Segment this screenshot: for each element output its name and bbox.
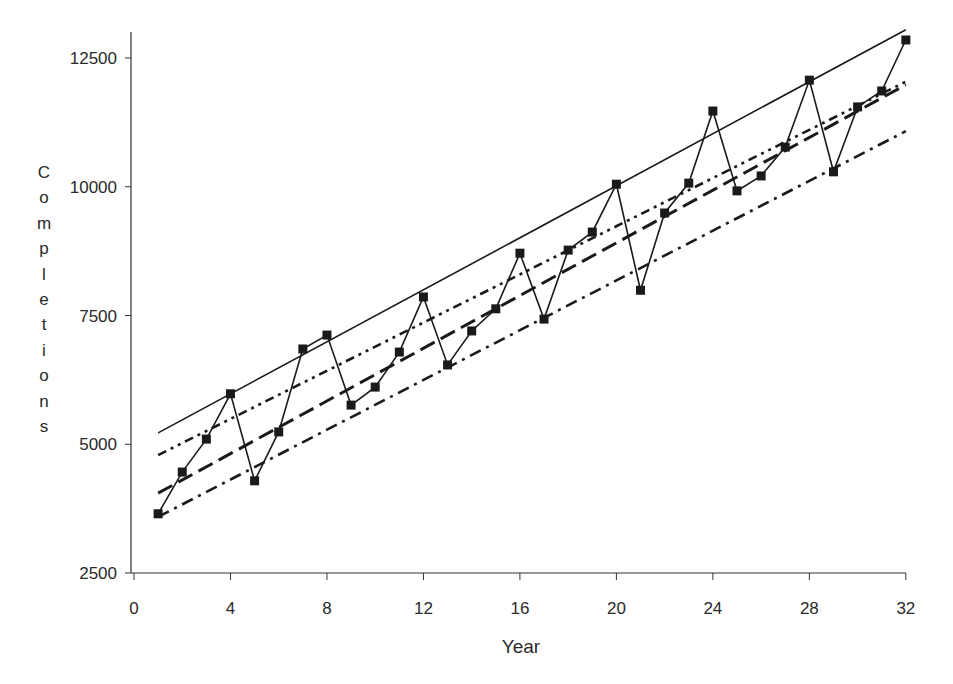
data-point-marker <box>660 209 669 218</box>
x-tick-label: 16 <box>510 599 529 618</box>
y-tick-label: 12500 <box>70 49 117 68</box>
y-tick-label: 7500 <box>79 307 117 326</box>
x-tick-label: 0 <box>129 599 138 618</box>
y-axis-title: Completions <box>37 163 51 436</box>
data-series <box>154 35 911 518</box>
y-axis-title-letter: n <box>39 392 48 411</box>
y-tick-label: 2500 <box>79 564 117 583</box>
data-point-marker <box>178 468 187 477</box>
y-tick-labels: 2500500075001000012500 <box>70 49 117 583</box>
data-point-marker <box>540 315 549 324</box>
x-tick-label: 8 <box>322 599 331 618</box>
data-point-marker <box>877 86 886 95</box>
trendlines <box>158 30 906 517</box>
trendline-dash-dot <box>158 131 906 517</box>
x-tick-label: 20 <box>607 599 626 618</box>
data-point-marker <box>588 228 597 237</box>
y-axis-title-letter: p <box>39 239 48 258</box>
x-tick-label: 12 <box>414 599 433 618</box>
y-axis-title-letter: l <box>42 265 46 284</box>
data-point-marker <box>226 389 235 398</box>
axes <box>125 32 906 580</box>
trendline-long-dash <box>158 85 906 493</box>
y-axis-title-letter: o <box>39 366 48 385</box>
data-point-marker <box>250 476 259 485</box>
data-point-marker <box>443 360 452 369</box>
x-tick-label: 24 <box>703 599 722 618</box>
data-point-marker <box>757 171 766 180</box>
data-point-marker <box>564 246 573 255</box>
data-point-marker <box>636 286 645 295</box>
data-point-marker <box>371 383 380 392</box>
data-point-marker <box>853 102 862 111</box>
x-tick-label: 32 <box>896 599 915 618</box>
data-point-marker <box>684 179 693 188</box>
trendline-solid <box>158 30 906 433</box>
data-point-marker <box>419 292 428 301</box>
completions-line <box>158 40 906 514</box>
data-point-marker <box>708 107 717 116</box>
data-point-marker <box>515 249 524 258</box>
x-axis-title: Year <box>502 636 541 657</box>
x-tick-label: 4 <box>226 599 235 618</box>
x-tick-label: 28 <box>800 599 819 618</box>
chart: 2500500075001000012500 048121620242832 Y… <box>0 0 953 684</box>
data-point-marker <box>901 35 910 44</box>
trendline-dash-dot-dot <box>158 82 906 455</box>
data-point-marker <box>347 401 356 410</box>
data-point-marker <box>274 427 283 436</box>
y-axis-title-letter: o <box>39 188 48 207</box>
y-axis-title-letter: t <box>42 315 47 334</box>
data-point-marker <box>829 167 838 176</box>
y-axis-title-letter: m <box>37 214 51 233</box>
y-axis-title-letter: i <box>42 341 46 360</box>
data-point-marker <box>805 76 814 85</box>
data-point-marker <box>491 304 500 313</box>
data-point-marker <box>395 348 404 357</box>
data-point-marker <box>202 435 211 444</box>
y-axis-title-letter: e <box>39 290 48 309</box>
data-point-marker <box>154 509 163 518</box>
data-point-marker <box>781 143 790 152</box>
y-axis-title-letter: s <box>40 417 49 436</box>
y-tick-label: 5000 <box>79 435 117 454</box>
y-axis-title-letter: C <box>38 163 50 182</box>
x-tick-labels: 048121620242832 <box>129 599 915 618</box>
data-point-marker <box>733 186 742 195</box>
data-point-marker <box>298 344 307 353</box>
data-point-marker <box>322 331 331 340</box>
y-tick-label: 10000 <box>70 178 117 197</box>
data-point-marker <box>467 326 476 335</box>
data-point-marker <box>612 180 621 189</box>
